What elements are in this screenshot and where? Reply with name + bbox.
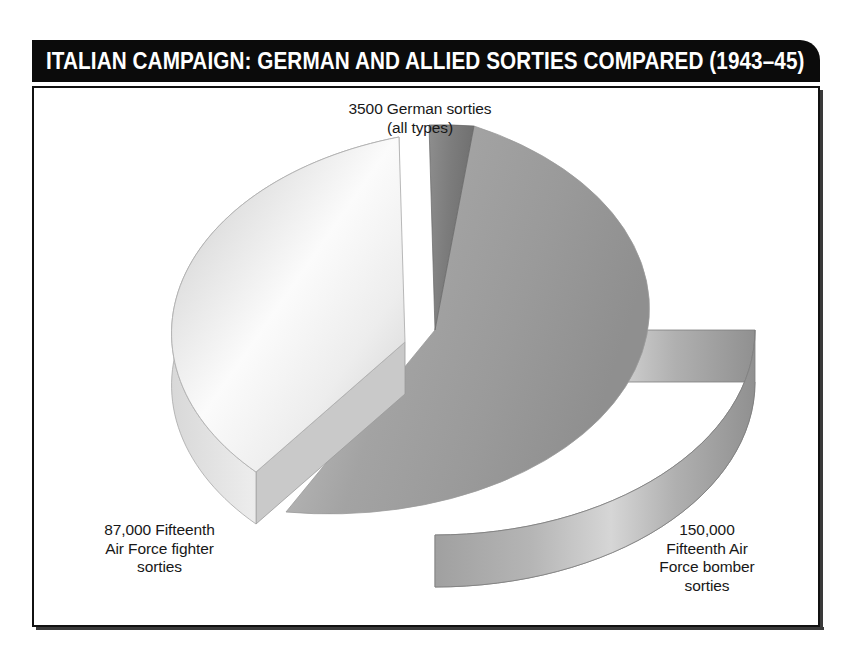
pie-label-german-sorties: 3500 German sorties (all types) [310,100,530,137]
frame-shadow-bottom [36,627,824,630]
title-bar: ITALIAN CAMPAIGN: GERMAN AND ALLIED SORT… [32,40,820,82]
pie-label-bomber-sorties: 150,000 Fifteenth Air Force bomber sorti… [612,521,802,595]
pie-label-fighter-sorties: 87,000 Fifteenth Air Force fighter sorti… [52,521,267,577]
frame-shadow-right [820,90,823,630]
page-title: ITALIAN CAMPAIGN: GERMAN AND ALLIED SORT… [46,48,805,75]
